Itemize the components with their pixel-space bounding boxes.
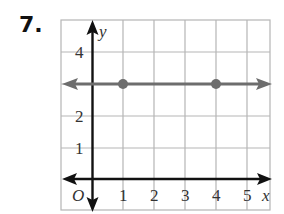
point-1-3 [118,79,128,89]
point-4-3 [211,79,221,89]
y-tick-1: 1 [75,139,84,158]
y-axis-label: y [97,22,107,41]
x-tick-4: 4 [212,186,221,205]
y-tick-4: 4 [75,43,84,62]
origin-label: O [72,186,84,205]
x-tick-1: 1 [119,186,128,205]
x-tick-5: 5 [243,186,252,205]
x-tick-2: 2 [150,186,159,205]
coordinate-plane: y x O 4 2 1 1 2 3 4 5 [0,0,284,214]
x-axis-label: x [261,186,270,205]
x-tick-3: 3 [181,186,190,205]
y-tick-2: 2 [75,107,84,126]
